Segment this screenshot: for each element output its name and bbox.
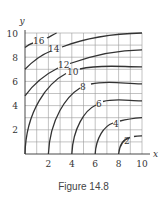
x-ticks: 2 4 6 8 10 xyxy=(46,159,148,169)
svg-text:4: 4 xyxy=(69,159,75,169)
contour-label-2: 2 xyxy=(124,136,130,146)
svg-text:2: 2 xyxy=(46,159,52,169)
y-ticks: 2 4 6 8 10 xyxy=(7,29,19,136)
contour-label-6: 6 xyxy=(96,99,102,109)
contour-label-4: 4 xyxy=(113,119,119,129)
contour-label-8: 8 xyxy=(80,82,86,92)
svg-text:8: 8 xyxy=(116,159,122,169)
svg-text:6: 6 xyxy=(12,77,18,87)
y-axis-label: y xyxy=(18,16,25,26)
svg-text:6: 6 xyxy=(92,159,98,169)
svg-text:2: 2 xyxy=(12,125,18,135)
svg-text:4: 4 xyxy=(12,101,18,111)
svg-text:8: 8 xyxy=(12,53,18,63)
contour-diagram: 2 4 6 8 10 12 14 16 2 4 6 8 10 2 4 6 8 1… xyxy=(0,0,167,204)
figure-caption: Figure 14.8 xyxy=(0,181,167,192)
svg-text:10: 10 xyxy=(7,29,19,39)
x-axis-label: x xyxy=(153,149,158,159)
contour-label-16: 16 xyxy=(33,36,45,46)
axes xyxy=(25,30,150,154)
contour-label-14: 14 xyxy=(48,44,60,54)
svg-text:10: 10 xyxy=(136,159,148,169)
contour-label-12: 12 xyxy=(58,60,69,70)
